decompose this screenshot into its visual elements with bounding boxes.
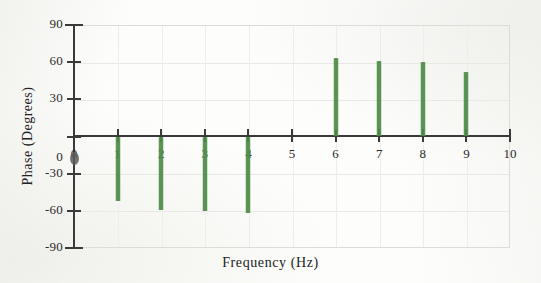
x-axis-title: Frequency (Hz) xyxy=(0,255,541,271)
y-axis-tick xyxy=(67,173,81,175)
gridline-horizontal xyxy=(75,211,509,212)
y-axis-tick xyxy=(67,210,81,212)
gridline-horizontal xyxy=(75,174,509,175)
phase-spectrum-figure: 906030-30-60-900 012345678910 Frequency … xyxy=(0,0,541,283)
y-axis-tick xyxy=(65,24,83,26)
y-axis-tick-label: -90 xyxy=(23,239,63,255)
x-axis-tick-label: 7 xyxy=(365,146,393,162)
x-axis-tick-label: 9 xyxy=(452,146,480,162)
y-axis-tick xyxy=(65,247,83,249)
x-axis-tick xyxy=(509,129,511,142)
x-axis-tick-label: 10 xyxy=(496,146,524,162)
stem-bar xyxy=(116,137,120,201)
x-axis-tick-label: 8 xyxy=(409,146,437,162)
x-axis-tick xyxy=(291,129,293,142)
stem-bar xyxy=(421,62,425,136)
x-axis-tick-label: 5 xyxy=(278,146,306,162)
y-axis-title: Phase (Degrees) xyxy=(20,46,36,226)
stem-bar xyxy=(377,61,381,137)
x-axis-tick xyxy=(73,129,75,142)
y-axis-tick-label: 90 xyxy=(23,16,63,32)
stem-bar xyxy=(334,58,338,136)
y-axis-tick xyxy=(67,61,81,63)
origin-point-marker xyxy=(70,152,79,165)
stem-bar xyxy=(159,137,163,210)
stem-bar xyxy=(203,137,207,211)
stem-bar xyxy=(464,72,468,136)
y-axis-tick xyxy=(67,98,81,100)
x-axis-tick-label: 6 xyxy=(322,146,350,162)
gridline-horizontal xyxy=(75,63,509,64)
gridline-horizontal xyxy=(75,100,509,101)
stem-bar xyxy=(246,137,250,214)
